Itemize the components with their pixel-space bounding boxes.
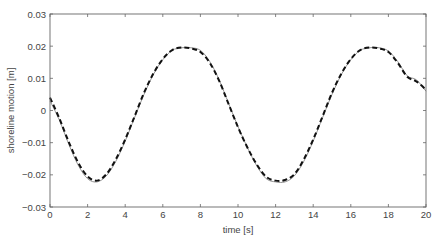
x-axis-label: time [s] — [223, 224, 254, 235]
x-tick-label: 10 — [233, 209, 244, 220]
x-tick-label: 0 — [47, 209, 52, 220]
line-chart: 02468101214161820 −0.03−0.02−0.0100.010.… — [0, 0, 440, 243]
y-tick-label: −0.03 — [22, 202, 46, 213]
x-tick-label: 2 — [85, 209, 90, 220]
y-tick-label: 0.03 — [28, 9, 47, 20]
x-tick-label: 16 — [346, 209, 357, 220]
x-tick-label: 20 — [421, 209, 432, 220]
y-tick-label: 0 — [41, 105, 46, 116]
x-tick-label: 12 — [270, 209, 281, 220]
y-tick-label: −0.02 — [22, 169, 46, 180]
x-tick-label: 18 — [383, 209, 394, 220]
y-tick-label: 0.02 — [28, 41, 47, 52]
plot-area — [50, 14, 426, 207]
x-tick-label: 6 — [160, 209, 165, 220]
x-tick-label: 8 — [198, 209, 203, 220]
x-tick-label: 14 — [308, 209, 319, 220]
y-tick-label: −0.01 — [22, 137, 46, 148]
x-tick-label: 4 — [123, 209, 128, 220]
y-tick-label: 0.01 — [28, 73, 47, 84]
y-axis-label: shoreline motion [m] — [5, 68, 16, 154]
